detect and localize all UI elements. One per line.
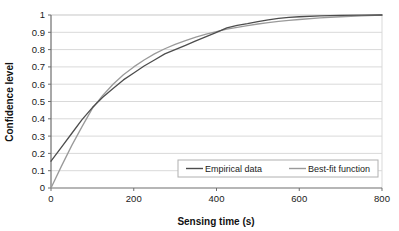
- y-tick-label: 0.9: [32, 27, 45, 38]
- y-tick-label: 0: [40, 182, 45, 193]
- y-tick-label: 0.6: [32, 79, 45, 90]
- chart-background: [0, 0, 399, 231]
- legend: Empirical dataBest-fit function: [178, 160, 378, 177]
- x-tick-label: 200: [126, 193, 142, 204]
- legend-label-2: Best-fit function: [308, 164, 370, 174]
- x-tick-label: 400: [209, 193, 225, 204]
- y-tick-label: 0.2: [32, 148, 45, 159]
- x-tick-label: 800: [374, 193, 390, 204]
- x-tick-label: 600: [291, 193, 307, 204]
- line-chart: 00.10.20.30.40.50.60.70.80.91 0200400600…: [0, 0, 399, 231]
- x-tick-label: 0: [48, 193, 53, 204]
- y-tick-label: 0.4: [32, 113, 45, 124]
- chart-container: 00.10.20.30.40.50.60.70.80.91 0200400600…: [0, 0, 399, 231]
- y-tick-label: 0.1: [32, 165, 45, 176]
- y-tick-label: 0.5: [32, 96, 45, 107]
- x-axis-title: Sensing time (s): [177, 216, 254, 227]
- y-tick-label: 0.3: [32, 131, 45, 142]
- legend-label-1: Empirical data: [205, 164, 262, 174]
- y-tick-label: 0.8: [32, 44, 45, 55]
- y-axis-title: Confidence level: [4, 62, 15, 142]
- y-tick-label: 1: [40, 9, 45, 20]
- y-tick-label: 0.7: [32, 61, 45, 72]
